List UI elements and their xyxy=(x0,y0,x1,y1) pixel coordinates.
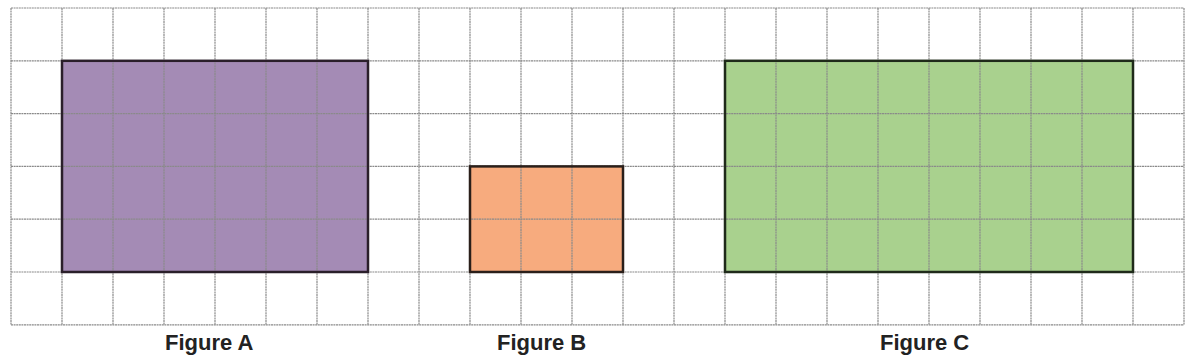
figure-b-label: Figure B xyxy=(497,332,586,354)
figure-c-label: Figure C xyxy=(880,332,969,354)
figure-a-label: Figure A xyxy=(165,332,253,354)
